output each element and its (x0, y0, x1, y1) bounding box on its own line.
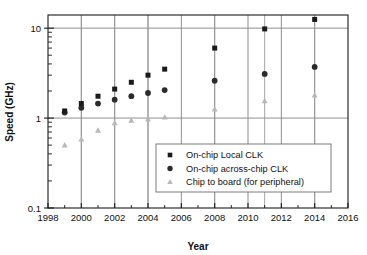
marker-circle (112, 97, 118, 103)
marker-square (129, 80, 134, 85)
marker-circle (95, 101, 101, 107)
x-tick-label: 2012 (271, 212, 292, 223)
x-tick-label: 2002 (104, 212, 125, 223)
chart-container: 1998200020022004200620082010201220142016… (0, 0, 367, 255)
chart-legend: On-chip Local CLKOn-chip across-chip CLK… (156, 144, 331, 192)
marker-square (79, 101, 84, 106)
marker-circle (162, 87, 168, 93)
marker-square (312, 17, 317, 22)
legend-label-circle: On-chip across-chip CLK (186, 164, 289, 174)
marker-circle (128, 93, 134, 99)
x-tick-label: 2000 (71, 212, 92, 223)
speed-vs-year-scatter-chart: 1998200020022004200620082010201220142016… (0, 0, 367, 255)
legend-label-square: On-chip Local CLK (186, 150, 264, 160)
y-tick-label: 10 (30, 23, 41, 34)
marker-square (262, 26, 267, 31)
y-tick-label: 0.1 (28, 203, 41, 214)
marker-square (162, 67, 167, 72)
marker-circle (212, 78, 218, 84)
x-tick-label: 2010 (237, 212, 258, 223)
x-tick-label: 2016 (337, 212, 358, 223)
y-axis-title: Speed (GHz) (4, 82, 15, 141)
marker-circle-legend (167, 166, 172, 171)
marker-circle (262, 71, 268, 77)
x-tick-label: 2006 (171, 212, 192, 223)
marker-circle (145, 90, 151, 96)
x-tick-label: 1998 (37, 212, 58, 223)
x-axis-title: Year (187, 241, 208, 252)
marker-square (146, 73, 151, 78)
marker-square (212, 46, 217, 51)
x-tick-label: 2014 (304, 212, 325, 223)
legend-label-triangle: Chip to board (for peripheral) (186, 177, 304, 187)
marker-square (62, 108, 67, 113)
marker-square (112, 87, 117, 92)
x-tick-label: 2008 (204, 212, 225, 223)
marker-square-legend (168, 153, 173, 158)
y-tick-label: 1 (36, 113, 41, 124)
x-tick-label: 2004 (137, 212, 158, 223)
marker-circle (312, 64, 318, 70)
marker-square (96, 94, 101, 99)
